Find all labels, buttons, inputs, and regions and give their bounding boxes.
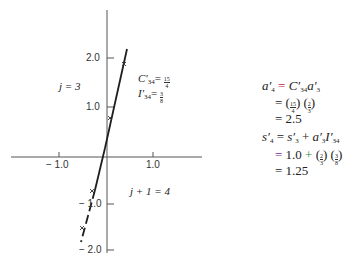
frac-den: 4 [165,83,168,89]
y-tick-label-1: 1.0 [86,101,100,112]
frac-num: 15 [164,76,170,83]
eq-s-a3: a′ [313,129,322,144]
eq-s-s3: s′ [287,129,295,144]
region-label-lower-text: j + 1 = 4 [130,185,170,197]
eq-a-line1: a′4 = C′34a′3 [262,78,320,94]
x-marker-icon [80,226,84,230]
eq-a-lhs-sub: 4 [271,86,275,94]
eq-a-C: C′ [289,78,301,93]
frac-num: 3 [335,153,338,160]
line-segment-middle [95,148,105,190]
param-I34: I′34= 38 [138,87,163,104]
frac-num: 15 [290,101,296,108]
eq-a-a3: a′ [307,78,316,93]
y-tick-label-neg1: − 1.0 [79,198,102,209]
eq-equals: = [275,147,282,162]
frac-den: 8 [335,160,338,166]
eq-s-line1: s′4 = s′3 + a′3I′34 [262,129,340,145]
eq-s-lhs: s′ [262,129,270,144]
eq-a-equals: = [278,78,285,93]
x-tick-label-neg1: − 1.0 [46,159,69,170]
eq-s-line3: = 1.25 [275,163,308,179]
frac-num: 3 [160,91,163,98]
x-tick-label-pos1: 1.0 [146,159,160,170]
region-label-upper: j = 3 [59,80,80,92]
eq-s-I-sub: 34 [333,137,340,145]
region-label-lower: j + 1 = 4 [130,185,170,197]
eq-s-lhs-sub: 4 [270,137,274,145]
eq-s-frac2: 38 [335,153,338,166]
eq-plus: + [305,147,312,162]
eq-plus: + [302,129,309,144]
y-tick-label-neg2: − 2.0 [79,244,102,255]
eq-s-result: 1.25 [286,163,309,178]
region-label-upper-text: j = 3 [59,80,80,92]
param-I-sub: 34 [144,93,151,101]
frac-den: 3 [308,108,311,114]
eq-equals: = [275,111,282,126]
eq-equals: = [275,95,282,110]
eq-equals: = [277,129,284,144]
param-C-frac: 154 [164,76,170,89]
eq-a-frac2: 23 [308,101,311,114]
frac-num: 2 [308,101,311,108]
param-C-name: C′ [138,72,148,84]
param-I-frac: 38 [160,91,163,104]
y-tick-label-2: 2.0 [86,52,100,63]
eq-s-s3-sub: 3 [295,137,299,145]
frac-den: 3 [320,160,323,166]
eq-a-result: 2.5 [286,111,302,126]
eq-a-lhs: a′ [262,78,271,93]
eq-equals: = [275,163,282,178]
frac-num: 2 [320,153,323,160]
x-marker-icon [90,189,94,193]
eq-a-a3-sub: 3 [317,86,321,94]
eq-s-value: 1.0 [286,147,302,162]
eq-s-frac1: 23 [320,153,323,166]
eq-s-I: I′ [325,129,332,144]
param-C-sub: 34 [148,78,155,86]
eq-a-line3: = 2.5 [275,111,302,127]
frac-den: 8 [160,98,163,104]
